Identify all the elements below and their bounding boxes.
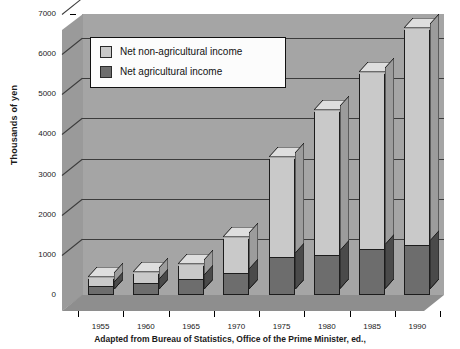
bar-segment-non-agricultural xyxy=(315,111,339,256)
legend-swatch xyxy=(100,46,112,58)
bar-segment-divider xyxy=(89,286,113,287)
bar-side-face xyxy=(114,263,123,289)
bar-front-face xyxy=(178,266,204,295)
x-tick-mark xyxy=(123,311,124,317)
y-axis-tick-labels: 01000200030004000500060007000 xyxy=(14,0,56,349)
bar-front-face xyxy=(404,30,430,295)
bar-column xyxy=(223,223,249,295)
bar-side-face xyxy=(159,258,168,289)
bar-side-face xyxy=(295,143,304,289)
bar-column xyxy=(133,258,159,295)
bar-segment-agricultural xyxy=(405,246,429,294)
bar-segment-divider xyxy=(134,283,158,284)
bar-segment-divider xyxy=(315,255,339,256)
y-tick-label: 0 xyxy=(16,291,56,299)
bar-segment-agricultural xyxy=(360,250,384,294)
bar-side-face xyxy=(340,96,349,289)
bar-segment-divider xyxy=(405,245,429,246)
x-tick-label: 1960 xyxy=(126,322,166,331)
y-tick-label: 7000 xyxy=(16,10,56,18)
bar-front-face xyxy=(314,112,340,295)
bar-side-face xyxy=(249,223,258,289)
bar-front-face xyxy=(223,239,249,295)
x-tick-mark xyxy=(440,311,441,317)
left-wall xyxy=(62,14,83,311)
bar-front-face xyxy=(133,274,159,295)
chart-figure: Thousands of yen 01000200030004000500060… xyxy=(0,0,460,349)
x-tick-mark xyxy=(78,311,79,317)
x-tick-label: 1955 xyxy=(81,322,121,331)
bar-front-face xyxy=(359,74,385,295)
x-tick-mark xyxy=(350,311,351,317)
legend-swatch xyxy=(100,66,112,78)
bar-column xyxy=(404,14,430,295)
bar-segment-agricultural xyxy=(224,274,248,294)
bar-front-face xyxy=(88,279,114,295)
bar-column xyxy=(314,96,340,295)
x-tick-mark xyxy=(169,311,170,317)
y-tick-label: 1000 xyxy=(16,251,56,259)
bar-segment-non-agricultural xyxy=(270,158,294,258)
y-tick-label: 4000 xyxy=(16,130,56,138)
bar-front-face xyxy=(269,159,295,295)
bar-column xyxy=(359,58,385,295)
bar-side-face xyxy=(204,250,213,289)
y-tick-label: 5000 xyxy=(16,90,56,98)
x-tick-label: 1975 xyxy=(262,322,302,331)
bar-column xyxy=(88,263,114,295)
x-tick-label: 1985 xyxy=(352,322,392,331)
legend-label: Net agricultural income xyxy=(120,65,222,79)
x-tick-mark xyxy=(259,311,260,317)
y-tick-label: 3000 xyxy=(16,171,56,179)
y-tick-label: 6000 xyxy=(16,50,56,58)
bar-segment-non-agricultural xyxy=(360,73,384,250)
bar-segment-non-agricultural xyxy=(179,265,203,280)
bar-segment-agricultural xyxy=(270,258,294,294)
x-tick-label: 1965 xyxy=(171,322,211,331)
bar-segment-agricultural xyxy=(315,256,339,294)
bar-segment-divider xyxy=(179,279,203,280)
x-tick-mark xyxy=(214,311,215,317)
bar-segment-non-agricultural xyxy=(405,29,429,246)
chart-legend: Net non-agricultural incomeNet agricultu… xyxy=(90,37,286,88)
bar-segment-divider xyxy=(224,273,248,274)
bar-segment-divider xyxy=(270,257,294,258)
bar-segment-agricultural xyxy=(134,284,158,294)
bar-segment-agricultural xyxy=(179,280,203,294)
x-tick-label: 1990 xyxy=(397,322,437,331)
bar-column xyxy=(178,250,204,295)
bar-segment-agricultural xyxy=(89,287,113,294)
x-tick-label: 1980 xyxy=(307,322,347,331)
x-tick-label: 1970 xyxy=(216,322,256,331)
legend-label: Net non-agricultural income xyxy=(120,45,242,59)
bar-segment-non-agricultural xyxy=(224,238,248,274)
gridline-side xyxy=(62,0,83,15)
floor-plane xyxy=(62,295,444,311)
figure-caption: Adapted from Bureau of Statistics, Offic… xyxy=(0,334,460,344)
bar-segment-divider xyxy=(360,249,384,250)
bar-column xyxy=(269,143,295,295)
x-tick-mark xyxy=(395,311,396,317)
bar-side-face xyxy=(385,58,394,289)
y-tick-label: 2000 xyxy=(16,211,56,219)
bar-side-face xyxy=(430,14,439,289)
x-tick-mark xyxy=(304,311,305,317)
